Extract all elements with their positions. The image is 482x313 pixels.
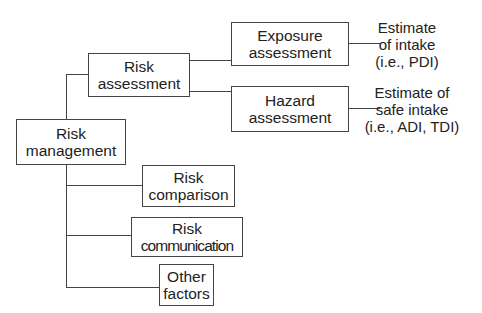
connector-management-trunk — [66, 164, 67, 288]
node-label-line1: Risk — [173, 169, 203, 186]
node-label-line2: management — [26, 142, 116, 159]
node-label-line1: Risk — [124, 58, 154, 75]
node-label-line1: Risk — [56, 125, 86, 142]
node-label-line2: communication — [141, 237, 234, 254]
connector-to-other-factors — [66, 287, 159, 288]
output-line3: (i.e., PDI) — [362, 53, 452, 70]
node-label-line1: Exposure — [257, 27, 322, 44]
node-risk-communication: Risk communication — [131, 217, 243, 257]
output-exposure-estimate: Estimate of intake (i.e., PDI) — [362, 19, 452, 70]
node-risk-management: Risk management — [16, 119, 126, 165]
output-line2: safe intake — [350, 101, 474, 118]
node-label-line2: assessment — [98, 75, 181, 92]
connector-to-hazard-assessment — [189, 91, 231, 92]
output-line1: Estimate — [362, 19, 452, 36]
node-risk-comparison: Risk comparison — [142, 165, 235, 207]
node-label-line2: factors — [163, 285, 210, 302]
connector-to-exposure-assessment — [189, 60, 231, 61]
node-label-line2: assessment — [249, 109, 332, 126]
node-exposure-assessment: Exposure assessment — [231, 22, 349, 66]
connector-to-risk-communication — [66, 235, 131, 236]
node-risk-assessment: Risk assessment — [88, 53, 190, 97]
node-label-line1: Other — [167, 268, 206, 285]
node-hazard-assessment: Hazard assessment — [231, 86, 349, 132]
connector-management-to-assessment — [66, 74, 67, 120]
node-other-factors: Other factors — [159, 264, 214, 306]
output-line1: Estimate of — [350, 84, 474, 101]
output-line2: of intake — [362, 36, 452, 53]
connector-to-risk-comparison — [66, 185, 142, 186]
node-label-line2: assessment — [249, 44, 332, 61]
node-label-line1: Hazard — [265, 92, 315, 109]
connector-to-risk-assessment — [66, 74, 88, 75]
node-label-line2: comparison — [148, 186, 228, 203]
output-hazard-estimate: Estimate of safe intake (i.e., ADI, TDI) — [350, 84, 474, 135]
output-line3: (i.e., ADI, TDI) — [350, 118, 474, 135]
node-label-line1: Risk — [172, 220, 202, 237]
